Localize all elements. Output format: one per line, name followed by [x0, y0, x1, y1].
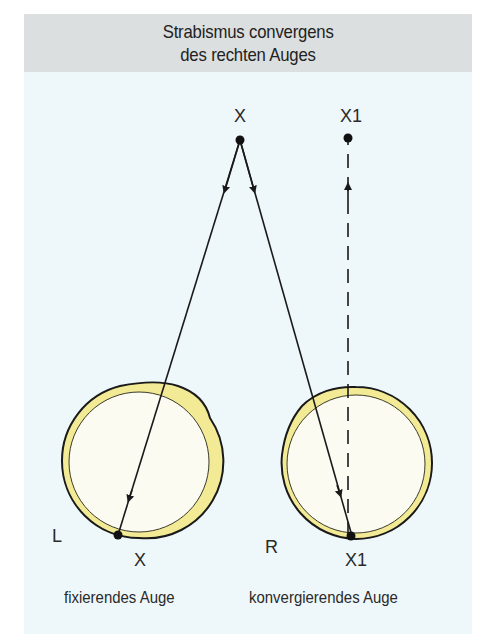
projected-point-dot: [344, 134, 353, 143]
projected-point-label: X1: [340, 106, 362, 126]
right-eyeball-inner: [287, 395, 425, 533]
left-eye-caption: fixierendes Auge: [64, 588, 175, 608]
right-retina-dot: [347, 532, 356, 541]
right-eye-caption: konvergierendes Auge: [249, 588, 398, 608]
strabismus-diagram: X X1 L R X X1: [0, 0, 482, 641]
left-retina-label: X: [134, 550, 146, 570]
fixation-point-label: X: [234, 106, 246, 126]
fixation-point-dot: [236, 136, 245, 145]
left-eyeball-inner: [69, 392, 209, 532]
left-eye: [62, 382, 223, 538]
right-eye: [282, 387, 432, 539]
left-retina-dot: [114, 531, 123, 540]
right-side-label: R: [265, 537, 278, 557]
right-retina-label: X1: [345, 550, 367, 570]
left-side-label: L: [52, 526, 62, 546]
